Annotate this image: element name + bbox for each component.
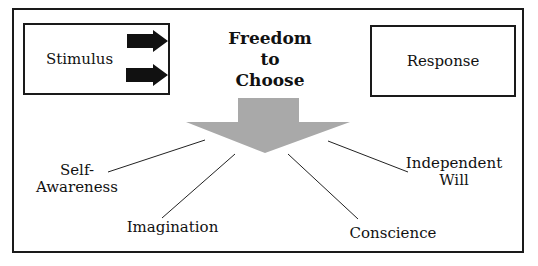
right-arrow-icon (127, 30, 168, 52)
self-awareness-line-2: Awareness (30, 179, 124, 196)
independent-will-label: Independent Will (403, 155, 505, 189)
self-awareness-line-1: Self- (30, 162, 124, 179)
independent-will-line-2: Will (403, 172, 505, 189)
connector-conscience (288, 154, 358, 219)
self-awareness-label: Self- Awareness (30, 162, 124, 196)
diagram-graphics (0, 0, 538, 266)
down-arrow-icon (186, 98, 350, 153)
connector-independent-will (328, 141, 408, 172)
right-arrow-icon (126, 64, 168, 86)
conscience-label: Conscience (343, 225, 443, 242)
connector-imagination (162, 154, 235, 218)
independent-will-line-1: Independent (403, 155, 505, 172)
imagination-label: Imagination (120, 219, 225, 236)
